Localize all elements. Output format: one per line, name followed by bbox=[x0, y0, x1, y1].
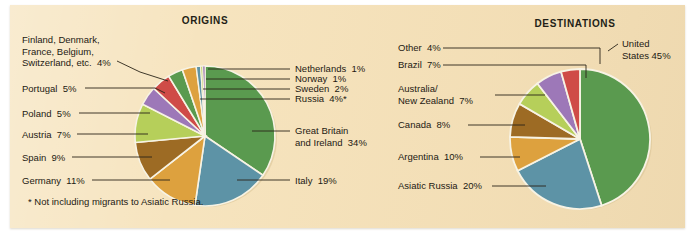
label-origins-scandinavia-etc: Finland, Denmark, France, Belgium, Switz… bbox=[22, 34, 111, 69]
label-destinations-asiatic-russia: Asiatic Russia 20% bbox=[398, 180, 482, 192]
destinations-pie-chart bbox=[508, 66, 654, 212]
label-destinations-united-states: United States 45% bbox=[622, 38, 671, 61]
migration-pie-figure: ORIGINS DESTINATIONS bbox=[0, 0, 695, 252]
chart-title-destinations: DESTINATIONS bbox=[505, 18, 645, 29]
label-destinations-australia-nz: Australia/ New Zealand 7% bbox=[398, 83, 473, 106]
label-origins-portugal: Portugal 5% bbox=[22, 83, 76, 95]
label-origins-poland: Poland 5% bbox=[22, 108, 71, 120]
label-origins-austria: Austria 7% bbox=[22, 129, 71, 141]
chart-title-origins: ORIGINS bbox=[145, 15, 265, 26]
footnote-asiatic-russia: * Not including migrants to Asiatic Russ… bbox=[28, 196, 203, 207]
label-origins-russia: Russia 4%* bbox=[295, 93, 347, 105]
origins-pie-chart bbox=[133, 63, 279, 209]
label-destinations-canada: Canada 8% bbox=[398, 119, 450, 131]
label-origins-great-britain: Great Britain and Ireland 34% bbox=[295, 125, 367, 148]
label-destinations-other: Other 4% bbox=[398, 42, 441, 54]
label-origins-italy: Italy 19% bbox=[295, 175, 337, 187]
label-destinations-argentina: Argentina 10% bbox=[398, 151, 463, 163]
label-origins-germany: Germany 11% bbox=[22, 175, 85, 187]
label-origins-spain: Spain 9% bbox=[22, 152, 65, 164]
label-destinations-brazil: Brazil 7% bbox=[398, 59, 441, 71]
